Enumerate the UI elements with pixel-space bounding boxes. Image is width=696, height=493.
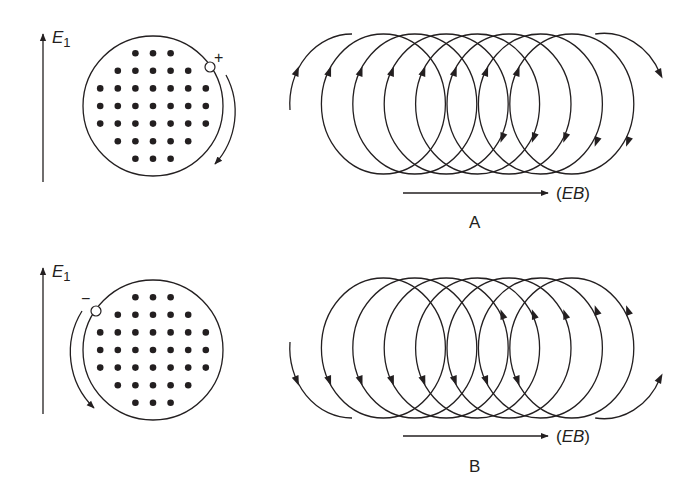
field-dot-icon [150,329,157,336]
field-dot-icon [185,364,192,371]
field-dot-icon [115,120,122,127]
field-dot-icon [132,400,139,407]
diagram-canvas [0,0,696,493]
drift-trajectory [290,33,666,174]
field-dot-icon [132,85,139,92]
trajectory-loop [353,34,477,174]
field-dot-icon [167,68,174,75]
panel-letter-a: A [469,214,480,231]
drift-symbol: EB [562,427,585,446]
field-dot-icon [167,138,174,145]
drift-label-a: (EB) [556,185,590,202]
field-dot-icon [150,312,157,319]
field-dot-icon [150,156,157,163]
field-dot-icon [167,103,174,110]
field-dot-icon [150,294,157,301]
panel-a [43,33,666,193]
field-dot-icon [132,120,139,127]
field-dot-icon [167,347,174,354]
field-dot-icon [185,68,192,75]
field-dot-icon [97,347,104,354]
field-dot-icon [167,85,174,92]
field-dot-icon [132,68,139,75]
field-dot-icon [167,400,174,407]
field-dot-icon [185,85,192,92]
field-dot-icon [115,347,122,354]
field-dot-icon [97,329,104,336]
negative-charge-icon [91,306,101,316]
field-dot-icon [167,120,174,127]
trajectory-loop [478,278,602,418]
direction-arrowhead-icon [324,375,334,387]
field-dot-icon [150,400,157,407]
field-dot-icon [167,312,174,319]
field-dot-icon [132,156,139,163]
trajectory-loop [478,34,602,174]
field-dot-icon [115,312,122,319]
direction-arrowhead-icon [356,65,366,77]
field-dot-icon [167,294,174,301]
field-dot-icon [115,85,122,92]
trajectory-loop [321,34,445,174]
trajectory-loop [384,34,508,174]
direction-arrowhead-icon [481,65,491,77]
direction-arrowhead-icon [292,65,302,77]
direction-arrowhead-icon [387,375,397,387]
drift-label-b: (EB) [556,428,590,445]
magnetic-field-dots [97,294,209,406]
charge-sign-b: − [81,291,90,307]
trajectory-loop [290,34,352,110]
field-dot-icon [185,382,192,389]
field-subscript: 1 [63,269,70,284]
field-dot-icon [167,156,174,163]
field-dot-icon [167,382,174,389]
field-dot-icon [150,103,157,110]
field-dot-icon [203,347,210,354]
field-subscript: 1 [63,35,70,50]
field-dot-icon [115,103,122,110]
drift-motion-figure: E1 + (EB) A E1 − (EB) B [0,0,696,493]
trajectory-loop [595,33,660,74]
rotation-arrow-icon [70,311,94,408]
field-dot-icon [132,347,139,354]
direction-arrowhead-icon [513,65,523,77]
field-dot-icon [115,68,122,75]
field-dot-icon [150,382,157,389]
trajectory-loop [416,34,540,174]
direction-arrowhead-icon [292,375,302,387]
trajectory-loop [447,278,571,418]
field-dot-icon [97,103,104,110]
field-dot-icon [132,382,139,389]
trajectory-loop [353,278,477,418]
field-dot-icon [132,50,139,57]
direction-arrowhead-icon [655,68,666,80]
direction-arrowhead-icon [450,375,460,387]
field-dot-icon [115,382,122,389]
rotation-arrow-icon [215,75,235,164]
trajectory-loop [510,278,634,418]
field-dot-icon [115,364,122,371]
field-dot-icon [97,120,104,127]
panel-letter-b: B [469,458,480,475]
direction-arrowhead-icon [513,375,523,387]
field-dot-icon [185,329,192,336]
drift-symbol: EB [562,184,585,203]
field-dot-icon [150,364,157,371]
field-dot-icon [132,103,139,110]
field-dot-icon [203,120,210,127]
trajectory-loop [290,342,352,418]
field-dot-icon [150,120,157,127]
field-dot-icon [185,103,192,110]
field-dot-icon [115,329,122,336]
field-dot-icon [132,138,139,145]
direction-arrowhead-icon [387,65,397,77]
trajectory-loop [384,278,508,418]
field-dot-icon [132,329,139,336]
trajectory-loop [595,378,660,419]
field-dot-icon [185,120,192,127]
field-dot-icon [132,294,139,301]
field-dot-icon [132,312,139,319]
field-dot-icon [97,364,104,371]
field-dot-icon [167,364,174,371]
panel-b [43,268,666,436]
